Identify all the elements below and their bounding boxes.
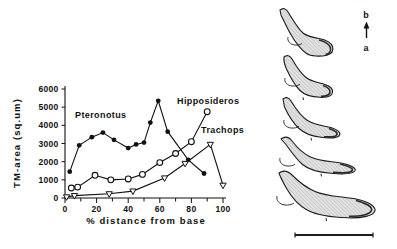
series-label-trachops: Trachops — [201, 125, 244, 135]
data-point-filled-circle — [89, 135, 94, 140]
data-point-filled-circle — [142, 140, 147, 145]
cross-section-panel: b a — [265, 0, 397, 249]
data-point-filled-circle — [101, 130, 106, 135]
y-tick-label: 0 — [53, 193, 58, 203]
tm-hook-5 — [277, 196, 294, 205]
data-point-open-triangle — [207, 142, 213, 148]
tm-notch-5 — [326, 218, 327, 221]
y-tick-label: 6000 — [38, 84, 58, 94]
x-tick-label: 0 — [62, 204, 67, 214]
data-point-open-circle — [68, 185, 74, 191]
figure-panel: 0100020003000400050006000020406080100 TM… — [0, 0, 397, 249]
data-point-filled-circle — [67, 169, 72, 174]
y-tick-label: 4000 — [38, 120, 58, 130]
data-point-filled-circle — [134, 142, 139, 147]
data-point-open-circle — [75, 184, 81, 190]
data-point-open-circle — [140, 171, 146, 177]
data-point-filled-circle — [202, 171, 207, 176]
tm-cross-section-4 — [281, 137, 355, 174]
up-arrow-icon — [364, 22, 370, 39]
data-point-open-circle — [92, 172, 98, 178]
data-point-open-circle — [173, 151, 179, 157]
tm-notch-2 — [303, 97, 304, 100]
scale-bar — [295, 233, 373, 238]
data-point-open-triangle — [220, 183, 226, 189]
data-point-filled-circle — [156, 98, 161, 103]
y-axis-title: TM-area (sq.um) — [11, 98, 22, 188]
series-label-pteronotus: Pteronotus — [75, 110, 127, 120]
tm-notch-4 — [321, 174, 322, 177]
orientation-label-b: b — [363, 10, 369, 20]
data-point-open-circle — [125, 176, 131, 182]
orientation-label-a: a — [363, 43, 369, 53]
x-tick-label: 60 — [155, 204, 165, 214]
series-label-hipposideros: Hipposideros — [177, 96, 239, 106]
data-point-filled-circle — [126, 146, 131, 151]
data-point-filled-circle — [77, 143, 82, 148]
data-point-filled-circle — [112, 137, 117, 142]
x-tick-label: 100 — [215, 204, 230, 214]
x-tick-label: 40 — [123, 204, 133, 214]
x-axis-title: % distance from base — [86, 215, 206, 226]
data-point-open-triangle — [182, 161, 188, 167]
x-tick-label: 20 — [92, 204, 102, 214]
tm-cross-section-1 — [280, 9, 333, 57]
y-tick-label: 3000 — [38, 139, 58, 149]
series-line-hipposideros — [71, 112, 207, 188]
tm-cross-section-5 — [279, 171, 375, 218]
data-point-filled-circle — [165, 129, 170, 134]
data-point-open-circle — [157, 160, 163, 166]
tm-cross-section-3 — [283, 98, 340, 138]
tm-notch-3 — [311, 138, 312, 141]
tm-area-chart: 0100020003000400050006000020406080100 TM… — [0, 0, 265, 249]
y-tick-label: 2000 — [38, 157, 58, 167]
series-line-trachops — [67, 144, 223, 197]
y-tick-label: 5000 — [38, 102, 58, 112]
tm-cross-section-2 — [284, 56, 333, 98]
x-tick-label: 80 — [186, 204, 196, 214]
y-tick-label: 1000 — [38, 175, 58, 185]
tm-hook-4 — [280, 158, 295, 166]
data-point-open-circle — [204, 109, 210, 115]
data-point-filled-circle — [148, 120, 153, 125]
data-point-open-circle — [108, 177, 114, 183]
data-point-open-circle — [189, 139, 195, 145]
